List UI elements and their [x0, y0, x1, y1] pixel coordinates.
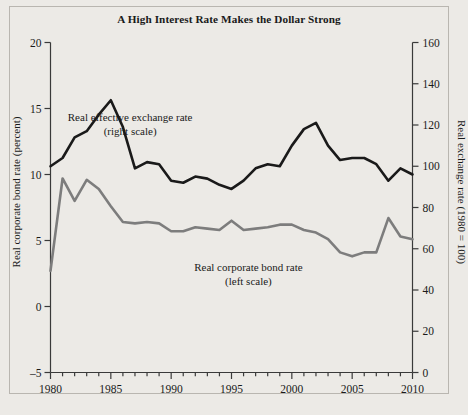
y-tick-label-right: 40	[423, 284, 435, 296]
x-tick-label: 1995	[220, 383, 243, 395]
bond-rate-annotation-line2: (left scale)	[225, 275, 272, 288]
y-tick-label-left: 0	[36, 301, 42, 313]
y-tick-label-right: 100	[423, 160, 441, 172]
y-tick-label-left: 10	[30, 169, 42, 181]
y-tick-label-right: 160	[423, 37, 441, 49]
y-tick-label-right: 20	[423, 325, 435, 337]
y-tick-label-left: 5	[36, 235, 42, 247]
x-tick-label: 1985	[99, 383, 122, 395]
x-tick-label: 2005	[341, 383, 364, 395]
y-tick-label-right: 140	[423, 78, 441, 90]
y-tick-label-left: 15	[30, 103, 42, 115]
x-tick-label: 1990	[160, 383, 183, 395]
x-tick-label: 1980	[39, 383, 62, 395]
series-line-real-corporate-bond-rate	[51, 178, 413, 270]
exchange-rate-annotation-line2: (right scale)	[104, 125, 157, 138]
x-tick-label: 2010	[401, 383, 424, 395]
x-tick-label: 2000	[280, 383, 303, 395]
y-tick-label-left: –5	[29, 367, 42, 379]
bond-rate-annotation-line1: Real corporate bond rate	[194, 261, 303, 273]
y-tick-label-left: 20	[30, 37, 42, 49]
y-tick-label-right: 0	[423, 367, 429, 379]
y-tick-label-right: 80	[423, 202, 435, 214]
y-tick-label-right: 120	[423, 119, 441, 131]
y-tick-label-right: 60	[423, 243, 435, 255]
exchange-rate-annotation-line1: Real effective exchange rate	[68, 111, 193, 123]
